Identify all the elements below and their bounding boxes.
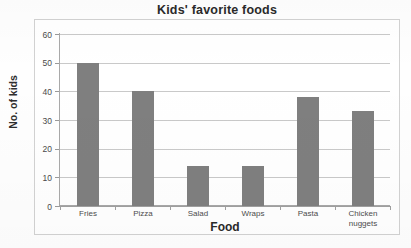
category-line-1: Pasta <box>280 209 336 219</box>
bar-fries <box>77 63 99 206</box>
gridline-10 <box>60 177 390 178</box>
bar-chart: Kids' favorite foods 60 50 40 30 20 10 0… <box>0 0 411 248</box>
y-tick-label: 40 <box>26 88 52 97</box>
x-category-label-salad: Salad <box>170 209 226 219</box>
category-line-1: Salad <box>170 209 226 219</box>
gridline-20 <box>60 149 390 150</box>
bar-pasta <box>297 97 319 206</box>
x-axis-title: Food <box>60 220 390 234</box>
y-tick-label: 0 <box>26 203 52 212</box>
bar-wraps <box>242 166 264 206</box>
bar-salad <box>187 166 209 206</box>
plot-area <box>60 34 390 206</box>
category-line-1: Chicken <box>335 209 391 219</box>
gridline-60 <box>60 34 390 35</box>
y-tick-label: 20 <box>26 145 52 154</box>
y-axis-title: No. of kids <box>7 67 19 137</box>
x-category-label-pasta: Pasta <box>280 209 336 219</box>
y-tick-label: 50 <box>26 59 52 68</box>
gridline-30 <box>60 120 390 121</box>
category-line-1: Wraps <box>225 209 281 219</box>
y-tick-label: 60 <box>26 31 52 40</box>
bar-chicken-nuggets <box>352 111 374 206</box>
y-tick-label: 10 <box>26 174 52 183</box>
chart-title: Kids' favorite foods <box>34 3 400 17</box>
gridline-40 <box>60 91 390 92</box>
category-line-1: Pizza <box>115 209 171 219</box>
y-axis-tick-labels: 60 50 40 30 20 10 0 <box>24 0 52 248</box>
x-category-label-pizza: Pizza <box>115 209 171 219</box>
x-category-label-fries: Fries <box>60 209 116 219</box>
category-line-1: Fries <box>60 209 116 219</box>
y-tick-label: 30 <box>26 117 52 126</box>
bar-pizza <box>132 91 154 206</box>
gridline-50 <box>60 63 390 64</box>
x-category-label-wraps: Wraps <box>225 209 281 219</box>
